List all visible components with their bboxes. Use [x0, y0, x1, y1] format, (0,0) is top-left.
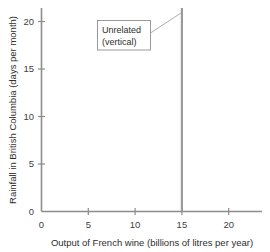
- x-tick-label-20: 20: [223, 219, 234, 230]
- x-tick-label-5: 5: [86, 219, 91, 230]
- y-tick-label-10: 10: [23, 111, 34, 122]
- y-axis-title: Rainfall in British Columbia (days per m…: [7, 16, 18, 204]
- x-axis-title: Output of French wine (billions of litre…: [51, 237, 253, 248]
- y-tick-label-0: 0: [29, 206, 34, 217]
- chart-container: Unrelated (vertical) 20 15 10 5 0 0 5 10…: [0, 0, 270, 252]
- y-tick-label-5: 5: [29, 158, 34, 169]
- chart-canvas: Unrelated (vertical) 20 15 10 5 0 0 5 10…: [0, 0, 270, 252]
- y-tick-label-20: 20: [23, 16, 34, 27]
- x-tick-label-0: 0: [39, 219, 44, 230]
- x-tick-label-10: 10: [130, 219, 141, 230]
- y-tick-label-15: 15: [23, 63, 34, 74]
- callout-line-2: (vertical): [102, 37, 137, 47]
- callout-leader-line: [151, 13, 182, 33]
- x-tick-label-15: 15: [177, 219, 188, 230]
- callout-line-1: Unrelated: [102, 25, 141, 35]
